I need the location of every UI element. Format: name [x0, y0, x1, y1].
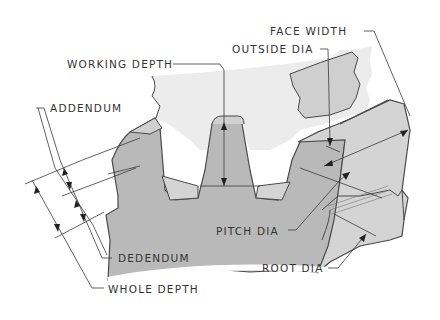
whole-depth-leader	[32, 180, 104, 288]
label-addendum: ADDENDUM	[50, 102, 122, 114]
center-tooth-top	[212, 116, 244, 124]
addendum-leader	[36, 108, 60, 160]
label-pitch-dia: PITCH DIA	[216, 225, 279, 237]
label-root-dia: ROOT DIA	[262, 262, 324, 274]
label-whole-depth: WHOLE DEPTH	[108, 283, 199, 295]
label-outside-dia: OUTSIDE DIA	[232, 43, 314, 55]
label-face-width: FACE WIDTH	[270, 25, 347, 37]
gear-nomenclature-diagram: WORKING DEPTH FACE WIDTH OUTSIDE DIA ADD…	[0, 0, 440, 320]
mating-gear-side	[290, 52, 360, 118]
label-working-depth: WORKING DEPTH	[67, 58, 173, 70]
gear-illustration	[0, 0, 440, 320]
dedendum-leader	[60, 160, 112, 258]
label-dedendum: DEDENDUM	[118, 252, 190, 264]
